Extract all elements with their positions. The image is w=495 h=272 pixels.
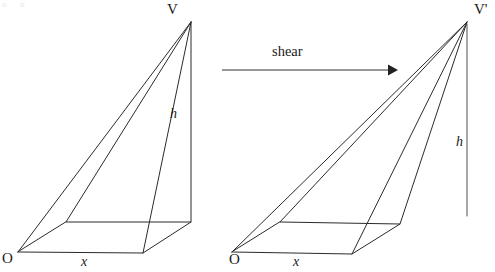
right-origin-label: O bbox=[229, 251, 240, 267]
shear-arrow-head-icon bbox=[388, 65, 398, 76]
right-pyramid-group: V' O x h bbox=[229, 1, 488, 269]
left-origin-label: O bbox=[2, 250, 13, 266]
right-apex-label: V' bbox=[474, 1, 488, 17]
shear-transform-group: shear bbox=[222, 43, 398, 76]
right-edge-backleft-to-apex bbox=[280, 22, 467, 222]
right-height-label: h bbox=[456, 134, 463, 149]
left-edge-backleft-to-apex bbox=[66, 22, 191, 222]
shear-transformation-diagram: V O x h shear bbox=[0, 0, 495, 272]
left-edge-origin-to-apex bbox=[18, 22, 191, 252]
shear-label: shear bbox=[272, 43, 303, 59]
right-edge-origin-to-apex bbox=[232, 22, 467, 252]
right-base-length-label: x bbox=[292, 254, 300, 269]
left-pyramid-group: V O x h bbox=[2, 1, 191, 269]
artifact-fragment-two: o bbox=[20, 0, 25, 9]
left-edge-frontright-to-apex bbox=[143, 22, 191, 253]
left-base-length-label: x bbox=[80, 254, 88, 269]
artifact-fragment-one: o bbox=[2, 0, 7, 9]
left-base-parallelogram bbox=[18, 222, 191, 253]
left-height-label: h bbox=[170, 106, 177, 121]
right-edge-frontright-to-apex bbox=[352, 22, 467, 254]
scan-artifact-group: o o bbox=[2, 0, 25, 9]
right-edge-backright-to-apex bbox=[400, 22, 467, 224]
diagram-canvas: V O x h shear bbox=[0, 0, 495, 272]
left-apex-label: V bbox=[167, 1, 178, 17]
